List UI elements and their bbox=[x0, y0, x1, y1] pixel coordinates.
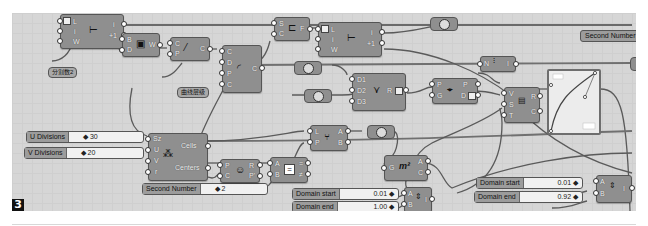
construct-domain-component-1[interactable]: A B ⇕ I bbox=[404, 187, 432, 211]
line-component[interactable]: C P ⁄ C bbox=[170, 37, 210, 61]
slider-knob-icon[interactable]: ◆ bbox=[215, 185, 222, 192]
input-port[interactable] bbox=[315, 46, 321, 52]
input-port[interactable] bbox=[315, 26, 321, 32]
output-port[interactable] bbox=[205, 165, 211, 171]
input-port[interactable] bbox=[145, 147, 151, 153]
input-port[interactable] bbox=[307, 128, 313, 134]
box-component[interactable]: B D ▣ W bbox=[122, 33, 160, 57]
input-port[interactable] bbox=[57, 28, 63, 34]
slider-knob-icon[interactable]: ◆ bbox=[81, 149, 88, 156]
input-port[interactable] bbox=[429, 92, 435, 98]
output-port[interactable] bbox=[425, 169, 431, 175]
slider-knob-icon[interactable]: ◆ bbox=[387, 190, 394, 197]
domain-start-slider-2[interactable]: Domain start 0.01 ◆ bbox=[476, 177, 583, 189]
curve-param-top[interactable] bbox=[430, 17, 458, 31]
input-port[interactable] bbox=[57, 18, 63, 24]
output-port[interactable] bbox=[403, 87, 409, 93]
slider-knob-icon[interactable]: ◆ bbox=[571, 179, 578, 186]
rectangular-grid-component[interactable]: Sz U V r ⁂ Cells Centers bbox=[148, 133, 208, 181]
input-port[interactable] bbox=[219, 70, 225, 76]
domain-end-slider-2[interactable]: Domain end 0.92 ◆ bbox=[474, 191, 583, 203]
output-port[interactable] bbox=[475, 92, 481, 98]
output-port[interactable] bbox=[429, 196, 435, 202]
input-port[interactable] bbox=[57, 38, 63, 44]
input-port[interactable] bbox=[145, 169, 151, 175]
area-component[interactable]: G m² A C bbox=[384, 155, 428, 181]
series-component-1[interactable]: L i W ⊢ i +1 bbox=[60, 14, 124, 49]
domain-start-slider-1[interactable]: Domain start 0.01 ◆ bbox=[292, 188, 399, 200]
output-port[interactable] bbox=[157, 42, 163, 48]
construct-domain-component-2[interactable]: A B ⇕ I bbox=[596, 175, 632, 203]
note-panel-divide[interactable]: 分割数2 bbox=[48, 67, 77, 78]
v-divisions-slider[interactable]: V Divisions ◆ 20 bbox=[24, 147, 144, 159]
curve-param-mid[interactable] bbox=[294, 61, 322, 75]
output-port[interactable] bbox=[259, 65, 265, 71]
input-port[interactable] bbox=[349, 87, 355, 93]
output-port[interactable] bbox=[475, 81, 481, 87]
output-port[interactable] bbox=[307, 26, 313, 32]
input-port[interactable] bbox=[119, 36, 125, 42]
curve-param-right-edge[interactable] bbox=[630, 57, 636, 71]
input-port[interactable] bbox=[401, 201, 407, 207]
populate-component[interactable]: P C ☺ R P' bbox=[220, 159, 260, 183]
output-port[interactable] bbox=[205, 143, 211, 149]
input-port[interactable] bbox=[219, 59, 225, 65]
slider-knob-icon[interactable]: ◆ bbox=[571, 193, 578, 200]
output-port[interactable] bbox=[629, 185, 635, 191]
note-panel-curve[interactable]: 曲线层级 bbox=[177, 87, 209, 98]
curve-param-low[interactable] bbox=[304, 89, 332, 103]
output-port[interactable] bbox=[305, 160, 311, 166]
slider-knob-icon[interactable]: ◆ bbox=[83, 133, 90, 140]
arc-component[interactable]: C D P C ◜ C bbox=[222, 45, 262, 93]
output-port[interactable] bbox=[257, 173, 263, 179]
input-port[interactable] bbox=[145, 158, 151, 164]
grasshopper-canvas[interactable]: L i W ⊢ i +1 B D ▣ W C P ⁄ C C D P C ◜ bbox=[12, 13, 636, 211]
input-port[interactable] bbox=[593, 190, 599, 196]
output-port[interactable] bbox=[513, 61, 519, 67]
input-port[interactable] bbox=[217, 173, 223, 179]
slider-knob-icon[interactable]: ◆ bbox=[387, 203, 394, 210]
input-port[interactable] bbox=[271, 20, 277, 26]
output-port[interactable] bbox=[537, 108, 543, 114]
domain-end-slider-1[interactable]: Domain end 1.00 ◆ bbox=[292, 201, 399, 211]
output-port[interactable] bbox=[425, 158, 431, 164]
input-port[interactable] bbox=[349, 76, 355, 82]
output-port[interactable] bbox=[379, 40, 385, 46]
output-port[interactable] bbox=[345, 128, 351, 134]
input-port[interactable] bbox=[477, 61, 483, 67]
input-port[interactable] bbox=[219, 81, 225, 87]
input-port[interactable] bbox=[167, 51, 173, 57]
equality-component[interactable]: A B = = ≠ bbox=[270, 157, 308, 183]
output-port[interactable] bbox=[345, 139, 351, 145]
remap-numbers-component[interactable]: V S T ▤ R C bbox=[504, 87, 540, 123]
input-port[interactable] bbox=[315, 36, 321, 42]
curve-param-dispatch[interactable] bbox=[367, 125, 395, 139]
input-port[interactable] bbox=[501, 101, 507, 107]
second-number-slider[interactable]: Second Number ◆ 2 bbox=[142, 183, 268, 195]
dispatch-component[interactable]: L P ⑂ A B bbox=[310, 125, 348, 151]
pull-point-component[interactable]: P G ⌖ P D bbox=[432, 78, 478, 104]
input-port[interactable] bbox=[349, 98, 355, 104]
output-port[interactable] bbox=[305, 171, 311, 177]
input-port[interactable] bbox=[267, 171, 273, 177]
input-port[interactable] bbox=[501, 112, 507, 118]
input-port[interactable] bbox=[167, 40, 173, 46]
second-number-label-top[interactable]: Second Number bbox=[580, 30, 636, 42]
output-port[interactable] bbox=[121, 21, 127, 27]
graph-mapper[interactable] bbox=[547, 69, 601, 135]
output-port[interactable] bbox=[207, 46, 213, 52]
input-port[interactable] bbox=[119, 47, 125, 53]
input-port[interactable] bbox=[501, 90, 507, 96]
output-port[interactable] bbox=[257, 162, 263, 168]
input-port[interactable] bbox=[267, 160, 273, 166]
input-port[interactable] bbox=[271, 31, 277, 37]
output-port[interactable] bbox=[537, 93, 543, 99]
list-item-component[interactable]: N ⫶ I bbox=[480, 56, 516, 72]
input-port[interactable] bbox=[429, 81, 435, 87]
output-port[interactable] bbox=[379, 29, 385, 35]
input-port[interactable] bbox=[593, 178, 599, 184]
input-port[interactable] bbox=[217, 162, 223, 168]
series-component-2[interactable]: L i W ⊢ i +1 bbox=[318, 22, 382, 57]
input-port[interactable] bbox=[401, 190, 407, 196]
input-port[interactable] bbox=[219, 48, 225, 54]
